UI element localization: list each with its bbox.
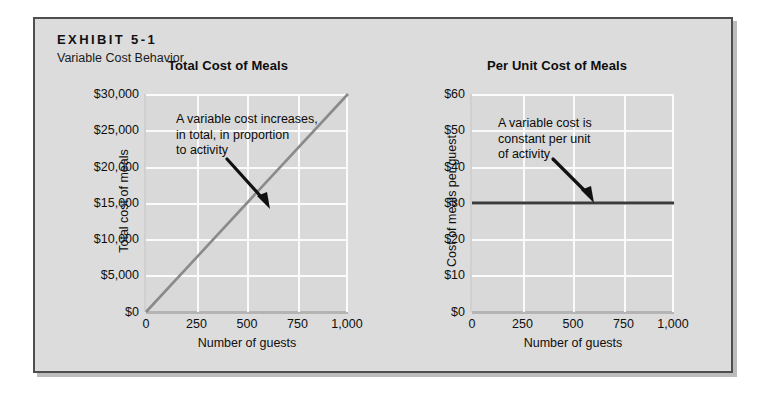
x-tick-label: 500 (237, 317, 258, 331)
x-tick-label: 1,000 (657, 317, 688, 331)
chart-per-unit-cost-of-meals: Per Unit Cost of Meals $0 $10 $20 $30 $4… (382, 45, 712, 355)
x-tick-label: 250 (512, 317, 533, 331)
plot-area-left: $0 $5,000 $10,000 $15,000 $20,000 $25,00… (146, 94, 348, 312)
x-tick-label: 1,000 (331, 317, 362, 331)
y-axis-title-right: Cost of meals per guest (445, 111, 459, 291)
x-tick-label: 750 (613, 317, 634, 331)
chart-title-right: Per Unit Cost of Meals (382, 58, 712, 73)
x-axis-title-right: Number of guests (472, 336, 674, 350)
x-axis-title-left: Number of guests (146, 336, 348, 350)
annotation-text-left: A variable cost increases, in total, in … (176, 112, 318, 159)
chart-total-cost-of-meals: Total Cost of Meals $0 $5,000 $10,000 $1… (50, 45, 380, 355)
x-tick-label: 0 (143, 317, 150, 331)
chart-title-left: Total Cost of Meals (50, 58, 380, 73)
exhibit-panel: EXHIBIT 5-1 Variable Cost Behavior Total… (33, 17, 733, 373)
annotation-arrow-right-icon (550, 156, 606, 208)
y-tick-label: $30,000 (94, 87, 139, 101)
x-tick-label: 500 (563, 317, 584, 331)
y-tick-label: $60 (444, 87, 465, 101)
annotation-arrow-left-icon (224, 156, 280, 214)
y-tick-label: $0 (451, 305, 465, 319)
x-tick-label: 250 (186, 317, 207, 331)
y-axis-title-left: Total cost of meals (117, 121, 131, 281)
x-tick-label: 750 (287, 317, 308, 331)
plot-area-right: $0 $10 $20 $30 $40 $50 $60 0 250 500 750… (472, 94, 674, 312)
x-tick-label: 0 (469, 317, 476, 331)
y-tick-label: $0 (125, 305, 139, 319)
